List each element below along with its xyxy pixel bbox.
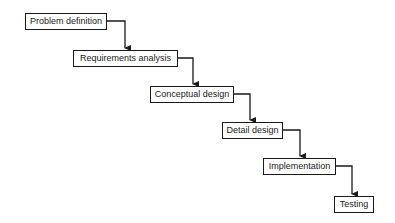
step-label: Testing <box>340 199 369 209</box>
connector-arrow-2 <box>178 58 193 84</box>
connector-layer <box>0 0 395 223</box>
step-implementation: Implementation <box>263 158 336 175</box>
connector-arrow-1 <box>107 21 125 48</box>
step-label: Conceptual design <box>155 89 230 99</box>
waterfall-diagram: Problem definition Requirements analysis… <box>0 0 395 223</box>
connector-arrow-4 <box>283 130 300 156</box>
connector-arrow-5 <box>336 166 352 194</box>
step-label: Problem definition <box>30 16 102 26</box>
step-detail-design: Detail design <box>222 122 283 139</box>
step-label: Detail design <box>226 125 278 135</box>
step-problem-definition: Problem definition <box>25 13 107 30</box>
step-label: Implementation <box>269 161 331 171</box>
step-requirements-analysis: Requirements analysis <box>73 50 178 67</box>
step-conceptual-design: Conceptual design <box>150 86 234 103</box>
step-label: Requirements analysis <box>80 53 171 63</box>
connector-arrow-3 <box>234 94 250 120</box>
step-testing: Testing <box>334 196 374 213</box>
